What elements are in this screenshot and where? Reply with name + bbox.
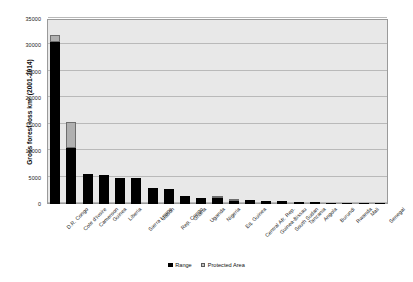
bar-rep-congo[interactable] [164, 189, 174, 204]
bar-segment-range [66, 148, 76, 204]
y-axis-title-container: Gross forest loss km² (2001-2014) [9, 19, 23, 204]
bar-segment-range [326, 203, 336, 204]
bar-nigeria[interactable] [212, 196, 222, 204]
bar-segment-range [294, 202, 304, 204]
bar-segment-range [50, 42, 60, 204]
bar-segment-range [212, 198, 222, 204]
bar-segment-range [375, 203, 385, 204]
x-tick-label: Ghana [192, 206, 208, 222]
bar-guinea-bissau[interactable] [261, 201, 271, 204]
bar-senegal[interactable] [375, 203, 385, 204]
legend-swatch-range-icon [168, 263, 173, 268]
x-tick-label: Eq. Guinea [244, 206, 267, 229]
bar-segment-protected-area [66, 122, 76, 148]
x-tick-label: Burundi [339, 206, 356, 223]
bar-segment-range [99, 175, 109, 204]
bar-eq-guinea[interactable] [229, 199, 239, 204]
bar-rwanda[interactable] [342, 203, 352, 204]
bar-guinea[interactable] [99, 175, 109, 204]
bar-segment-range [83, 174, 93, 204]
bar-angola[interactable] [310, 202, 320, 204]
bar-sierra-leone[interactable] [131, 178, 141, 204]
bar-burundi[interactable] [326, 203, 336, 204]
bar-ghana[interactable] [180, 196, 190, 204]
bars-layer [47, 19, 388, 204]
y-tick-label: 35000 [26, 16, 42, 22]
y-tick-label: 0 [38, 201, 41, 207]
legend-label: Range [175, 262, 191, 268]
bar-tanzania[interactable] [294, 202, 304, 204]
bar-segment-range [261, 201, 271, 204]
legend-label: Protected Area [208, 262, 245, 268]
x-tick-label: Uganda [209, 206, 227, 224]
chart-legend: RangeProtected Area [0, 262, 413, 268]
bar-segment-range [164, 189, 174, 204]
bar-segment-range [277, 201, 287, 204]
gridline [48, 17, 387, 18]
bar-cote-d-ivoire[interactable] [66, 122, 76, 204]
bar-segment-range [359, 203, 369, 204]
bar-liberia[interactable] [115, 178, 125, 204]
x-tick-label: Nigeria [225, 206, 241, 222]
y-axis-title: Gross forest loss km² (2001-2014) [26, 37, 33, 187]
bar-south-sudan[interactable] [277, 201, 287, 204]
bar-cameroon[interactable] [83, 174, 93, 204]
bar-segment-range [196, 198, 206, 204]
bar-gabon[interactable] [148, 188, 158, 204]
legend-item[interactable]: Protected Area [201, 262, 245, 268]
bar-segment-range [131, 178, 141, 204]
legend-swatch-protected-area-icon [201, 263, 206, 268]
bar-d-r-congo[interactable] [50, 35, 60, 204]
bar-segment-range [229, 201, 239, 204]
bar-mali[interactable] [359, 203, 369, 204]
x-tick-label: Gabon [159, 206, 175, 222]
bar-segment-range [245, 200, 255, 204]
x-axis-labels: D.R. CongoCote d'IvoireCameroonGuineaLib… [47, 206, 388, 264]
bar-segment-range [180, 196, 190, 204]
bar-segment-protected-area [50, 35, 60, 42]
chart-figure: 05000100001500020000250003000035000 Gros… [0, 0, 413, 282]
bar-segment-range [148, 188, 158, 204]
bar-segment-range [342, 203, 352, 204]
bar-uganda[interactable] [196, 198, 206, 204]
legend-item[interactable]: Range [168, 262, 191, 268]
bar-segment-range [310, 202, 320, 204]
bar-segment-range [115, 178, 125, 204]
x-tick-label: Senegal [388, 206, 406, 224]
x-tick-label: Liberia [127, 206, 143, 222]
bar-central-afr-rep[interactable] [245, 200, 255, 204]
